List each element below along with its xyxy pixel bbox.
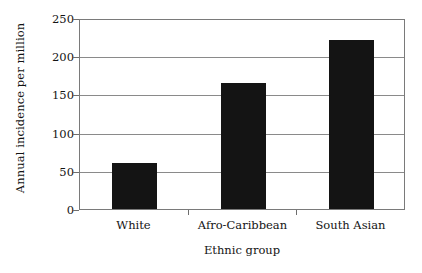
bar	[221, 83, 266, 209]
x-tick-mark	[188, 210, 189, 215]
y-axis-tick-labels: 050100150200250	[30, 0, 74, 273]
y-axis-title: Annual incidence per million	[10, 10, 30, 206]
x-tick-label: South Asian	[296, 218, 405, 232]
bar	[112, 163, 157, 209]
x-tick-label: Afro-Caribbean	[188, 218, 297, 232]
y-tick-label: 100	[34, 129, 74, 139]
y-tick-label: 50	[34, 167, 74, 177]
bar	[329, 40, 374, 209]
plot-area	[79, 19, 405, 210]
y-tick-label: 250	[34, 14, 74, 24]
bar-chart-figure: Annual incidence per million 05010015020…	[0, 0, 422, 273]
x-tick-label: White	[79, 218, 188, 232]
x-axis-tick-labels: WhiteAfro-CaribbeanSouth Asian	[79, 218, 405, 234]
y-tick-label: 150	[34, 90, 74, 100]
x-tick-mark	[296, 210, 297, 215]
y-tick-label: 200	[34, 52, 74, 62]
x-axis-tick-marks	[79, 210, 405, 215]
y-tick-label: 0	[34, 205, 74, 215]
x-axis-title: Ethnic group	[79, 243, 405, 257]
